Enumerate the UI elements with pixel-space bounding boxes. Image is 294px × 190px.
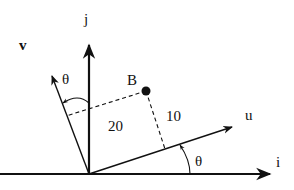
i-axis-label: i [276,154,280,170]
projection-to-v-axis [66,91,146,116]
upper-angle-arc [63,98,89,103]
v-axis-label: v [19,37,27,53]
projection-to-u-axis [146,91,165,149]
point-b-marker [142,87,151,96]
projection-20-label: 20 [108,118,123,134]
upper-theta-label: θ [62,71,69,87]
v-axis [52,76,89,174]
lower-angle-arc [180,145,190,174]
lower-theta-label: θ [195,153,202,169]
u-axis-label: u [245,107,253,123]
diagram-canvas: i j u v B 20 10 θ θ [0,0,294,190]
point-b-label: B [127,72,137,88]
projection-10-label: 10 [166,108,181,124]
j-axis-label: j [83,11,88,27]
